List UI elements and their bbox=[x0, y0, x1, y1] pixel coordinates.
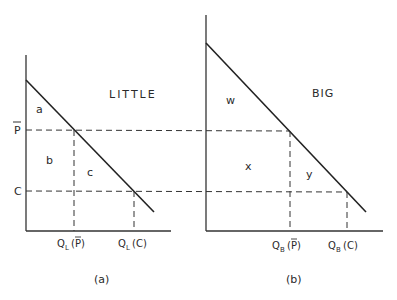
svg-text:Q: Q bbox=[272, 240, 280, 251]
ql-c-label: Q L (C) bbox=[118, 238, 147, 252]
svg-text:Q: Q bbox=[118, 238, 126, 249]
caption-a: (a) bbox=[94, 273, 109, 286]
area-b: b bbox=[46, 154, 53, 167]
c-label: C bbox=[14, 185, 22, 198]
panel-b-guides bbox=[290, 131, 347, 231]
svg-text:B: B bbox=[336, 246, 341, 254]
svg-text:L: L bbox=[126, 244, 130, 252]
ql-pbar-label: Q L (P) bbox=[57, 237, 85, 252]
qb-c-label: Q B (C) bbox=[328, 240, 358, 254]
svg-text:(P): (P) bbox=[71, 238, 85, 249]
panel-b-demand-line bbox=[206, 43, 366, 212]
svg-text:Q: Q bbox=[328, 240, 336, 251]
svg-text:Q: Q bbox=[57, 238, 65, 249]
big-title: BIG bbox=[312, 87, 334, 100]
svg-text:(C): (C) bbox=[132, 238, 147, 249]
area-c: c bbox=[87, 166, 93, 179]
svg-text:(P): (P) bbox=[287, 240, 301, 251]
svg-text:(C): (C) bbox=[343, 240, 358, 251]
panel-a-guides bbox=[74, 130, 134, 231]
p-bar-label: P bbox=[14, 124, 21, 137]
area-a: a bbox=[36, 103, 43, 116]
caption-b: (b) bbox=[286, 273, 302, 286]
demand-diagram: P C LITTLE a b c Q L (P) Q L (C) (a) BIG… bbox=[0, 0, 397, 300]
area-y: y bbox=[306, 168, 313, 181]
area-w: w bbox=[226, 94, 235, 107]
panel-a-axes bbox=[26, 55, 171, 231]
area-x: x bbox=[245, 160, 252, 173]
svg-text:B: B bbox=[280, 246, 285, 254]
little-title: LITTLE bbox=[109, 88, 157, 101]
qb-pbar-label: Q B (P) bbox=[272, 239, 301, 254]
panel-b-axes bbox=[206, 15, 383, 231]
svg-text:L: L bbox=[65, 244, 69, 252]
